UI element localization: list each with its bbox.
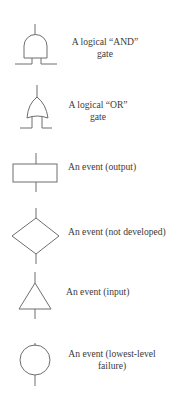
or-gate-label-line-2: gate bbox=[62, 111, 134, 123]
circle-icon bbox=[20, 343, 50, 386]
and-gate-label-line-2: gate bbox=[62, 48, 148, 60]
event-lowest-level-failure-label-line-1: An event (lowest-level bbox=[60, 348, 164, 360]
event-output-label: An event (output) bbox=[68, 161, 136, 173]
and-gate-label-line-1: A logical “AND” bbox=[62, 36, 148, 48]
event-input-label: An event (input) bbox=[66, 286, 129, 298]
and-gate-icon bbox=[15, 24, 57, 64]
or-gate-label: A logical “OR” gate bbox=[62, 99, 134, 123]
diamond-icon bbox=[12, 208, 59, 264]
or-gate-icon bbox=[20, 85, 52, 128]
event-not-developed-label: An event (not developed) bbox=[68, 226, 166, 238]
rectangle-icon bbox=[13, 153, 57, 192]
event-not-developed-label-line-1: An event (not developed) bbox=[68, 226, 166, 238]
or-gate-label-line-1: A logical “OR” bbox=[62, 99, 134, 111]
and-gate-label: A logical “AND” gate bbox=[62, 36, 148, 60]
event-lowest-level-failure-label-line-2: failure) bbox=[60, 360, 164, 372]
event-lowest-level-failure-label: An event (lowest-level failure) bbox=[60, 348, 164, 372]
fault-tree-legend-diagram bbox=[0, 0, 185, 403]
triangle-icon bbox=[19, 272, 51, 319]
event-output-label-line-1: An event (output) bbox=[68, 161, 136, 173]
event-input-label-line-1: An event (input) bbox=[66, 286, 129, 298]
